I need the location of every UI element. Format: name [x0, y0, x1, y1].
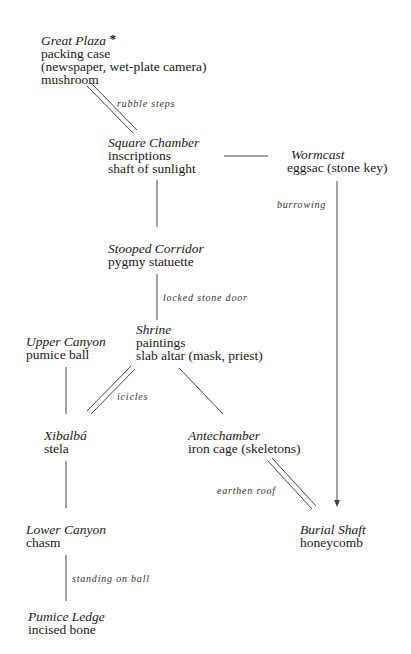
node-burial-shaft: Burial Shaft honeycomb — [300, 523, 366, 549]
node-item: mushroom — [41, 73, 207, 86]
node-square-chamber: Square Chamber inscriptions shaft of sun… — [108, 136, 199, 175]
node-shrine: Shrine paintings slab altar (mask, pries… — [136, 323, 263, 362]
node-item: pumice ball — [26, 348, 106, 361]
edge-shrine-xibalba — [87, 366, 135, 414]
node-lower-canyon: Lower Canyon chasm — [26, 523, 106, 549]
edge-antechamber-burial-shaft — [268, 458, 316, 509]
node-item: iron cage (skeletons) — [188, 442, 300, 455]
arrowhead-icon — [334, 500, 340, 507]
edge-label-icicles: icicles — [117, 391, 148, 402]
star-icon: * — [110, 31, 117, 46]
node-item: stela — [44, 442, 87, 455]
node-stooped-corridor: Stooped Corridor pygmy statuette — [108, 242, 204, 268]
edge-label-rubble-steps: rubble steps — [117, 98, 175, 109]
edge-shrine-antechamber — [179, 368, 223, 414]
node-item: eggsac (stone key) — [287, 161, 387, 174]
edge-label-earthen-roof: earthen roof — [217, 485, 276, 496]
node-wormcast: Wormcast eggsac (stone key) — [287, 148, 387, 174]
node-item: pygmy statuette — [108, 255, 204, 268]
edge-label-standing-on-ball: standing on ball — [72, 573, 150, 584]
node-title: Great Plaza * — [41, 32, 207, 47]
node-item: chasm — [26, 536, 106, 549]
node-antechamber: Antechamber iron cage (skeletons) — [188, 429, 300, 455]
edge-label-locked-stone-door: locked stone door — [163, 292, 248, 303]
edge-label-burrowing: burrowing — [277, 199, 326, 210]
node-xibalba: Xibalbá stela — [44, 429, 87, 455]
node-upper-canyon: Upper Canyon pumice ball — [26, 335, 106, 361]
node-item: slab altar (mask, priest) — [136, 349, 263, 362]
node-pumice-ledge: Pumice Ledge incised bone — [28, 610, 105, 636]
node-item: honeycomb — [300, 536, 366, 549]
node-great-plaza: Great Plaza * packing case (newspaper, w… — [41, 32, 207, 86]
node-item: incised bone — [28, 623, 105, 636]
node-item: shaft of sunlight — [108, 162, 199, 175]
